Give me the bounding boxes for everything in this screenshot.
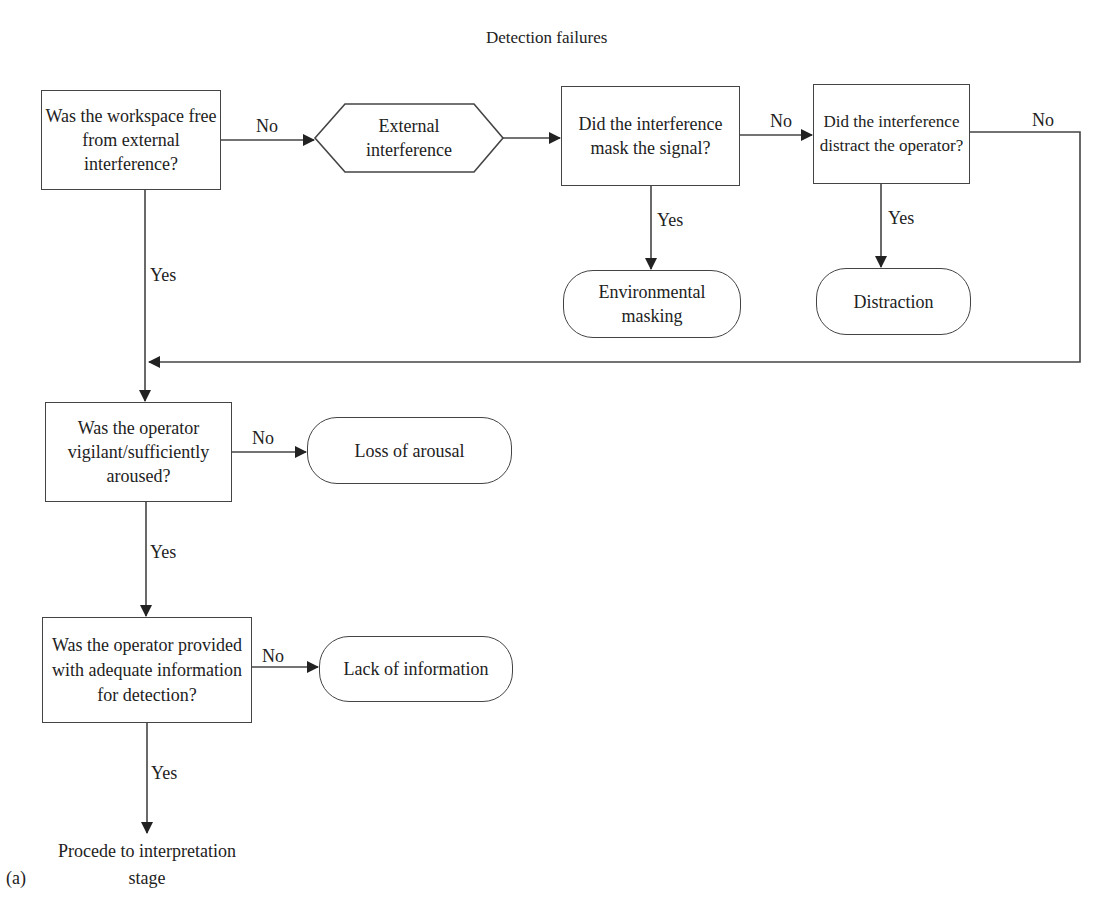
figure-label: (a) xyxy=(6,868,26,888)
question-distract-operator-text: Did the interference distract the operat… xyxy=(814,110,969,158)
edge-label-mask-no: No xyxy=(770,111,792,131)
external-interference-node: External interference xyxy=(340,104,478,172)
edge-label-vigilant-no: No xyxy=(252,428,274,448)
question-workspace-free-text: Was the workspace free from external int… xyxy=(42,104,220,176)
edge-label-information-no: No xyxy=(262,646,284,666)
question-workspace-free: Was the workspace free from external int… xyxy=(41,90,221,190)
end-line-1: Procede to interpretation xyxy=(20,838,274,865)
question-mask-signal-text: Did the interference mask the signal? xyxy=(562,112,739,160)
question-operator-vigilant: Was the operator vigilant/sufficiently a… xyxy=(45,402,232,502)
edge-label-distract-yes: Yes xyxy=(888,208,914,228)
outcome-distraction: Distraction xyxy=(816,268,971,335)
edge-label-mask-yes: Yes xyxy=(657,210,683,230)
outcome-lack-of-information-text: Lack of information xyxy=(344,657,489,681)
outcome-loss-of-arousal: Loss of arousal xyxy=(307,417,512,484)
edge-label-vigilant-yes: Yes xyxy=(150,542,176,562)
edge-label-workspace-no: No xyxy=(256,116,278,136)
question-adequate-information: Was the operator provided with adequate … xyxy=(42,617,252,723)
diagram-title: Detection failures xyxy=(486,28,607,48)
edge-label-distract-no: No xyxy=(1032,110,1054,130)
question-adequate-information-text: Was the operator provided with adequate … xyxy=(43,633,251,708)
outcome-loss-of-arousal-text: Loss of arousal xyxy=(355,439,465,463)
external-interference-text: External interference xyxy=(340,114,478,162)
edge-label-workspace-yes: Yes xyxy=(150,265,176,285)
end-procede-interpretation: Procede to interpretation stage xyxy=(20,838,274,892)
outcome-lack-of-information: Lack of information xyxy=(319,636,513,702)
question-distract-operator: Did the interference distract the operat… xyxy=(813,84,970,184)
outcome-distraction-text: Distraction xyxy=(854,290,934,314)
edge-label-information-yes: Yes xyxy=(151,763,177,783)
outcome-environmental-masking: Environmental masking xyxy=(563,270,741,338)
question-mask-signal: Did the interference mask the signal? xyxy=(561,86,740,186)
question-operator-vigilant-text: Was the operator vigilant/sufficiently a… xyxy=(46,416,231,488)
end-line-2: stage xyxy=(20,865,274,892)
outcome-environmental-masking-text: Environmental masking xyxy=(564,280,740,328)
